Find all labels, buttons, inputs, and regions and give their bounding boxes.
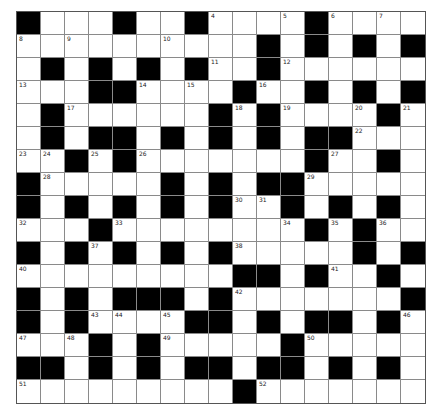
answer-cell[interactable] bbox=[377, 334, 401, 357]
answer-cell[interactable] bbox=[17, 58, 41, 81]
answer-cell[interactable]: 13 bbox=[17, 81, 41, 104]
answer-cell[interactable] bbox=[137, 265, 161, 288]
answer-cell[interactable] bbox=[305, 380, 329, 403]
answer-cell[interactable]: 33 bbox=[113, 219, 137, 242]
answer-cell[interactable]: 15 bbox=[185, 81, 209, 104]
answer-cell[interactable] bbox=[401, 173, 425, 196]
answer-cell[interactable] bbox=[209, 334, 233, 357]
answer-cell[interactable] bbox=[41, 380, 65, 403]
answer-cell[interactable] bbox=[113, 357, 137, 380]
answer-cell[interactable]: 20 bbox=[353, 104, 377, 127]
answer-cell[interactable]: 36 bbox=[377, 219, 401, 242]
answer-cell[interactable]: 26 bbox=[137, 150, 161, 173]
answer-cell[interactable] bbox=[401, 219, 425, 242]
answer-cell[interactable] bbox=[65, 127, 89, 150]
answer-cell[interactable] bbox=[281, 150, 305, 173]
answer-cell[interactable]: 29 bbox=[305, 173, 329, 196]
answer-cell[interactable] bbox=[89, 380, 113, 403]
answer-cell[interactable] bbox=[41, 196, 65, 219]
answer-cell[interactable]: 47 bbox=[17, 334, 41, 357]
answer-cell[interactable] bbox=[41, 219, 65, 242]
answer-cell[interactable] bbox=[17, 127, 41, 150]
answer-cell[interactable]: 22 bbox=[353, 127, 377, 150]
answer-cell[interactable] bbox=[185, 127, 209, 150]
answer-cell[interactable]: 50 bbox=[305, 334, 329, 357]
answer-cell[interactable] bbox=[401, 357, 425, 380]
answer-cell[interactable] bbox=[65, 12, 89, 35]
answer-cell[interactable] bbox=[41, 288, 65, 311]
answer-cell[interactable]: 51 bbox=[17, 380, 41, 403]
answer-cell[interactable] bbox=[209, 150, 233, 173]
answer-cell[interactable] bbox=[185, 150, 209, 173]
answer-cell[interactable] bbox=[185, 196, 209, 219]
answer-cell[interactable] bbox=[89, 35, 113, 58]
answer-cell[interactable]: 27 bbox=[329, 150, 353, 173]
answer-cell[interactable] bbox=[41, 242, 65, 265]
answer-cell[interactable] bbox=[185, 288, 209, 311]
answer-cell[interactable] bbox=[209, 380, 233, 403]
answer-cell[interactable] bbox=[281, 81, 305, 104]
answer-cell[interactable] bbox=[329, 242, 353, 265]
answer-cell[interactable]: 25 bbox=[89, 150, 113, 173]
answer-cell[interactable]: 10 bbox=[161, 35, 185, 58]
answer-cell[interactable] bbox=[281, 380, 305, 403]
answer-cell[interactable] bbox=[185, 104, 209, 127]
answer-cell[interactable] bbox=[233, 219, 257, 242]
answer-cell[interactable] bbox=[377, 58, 401, 81]
answer-cell[interactable]: 44 bbox=[113, 311, 137, 334]
answer-cell[interactable] bbox=[113, 334, 137, 357]
answer-cell[interactable] bbox=[353, 58, 377, 81]
answer-cell[interactable] bbox=[257, 334, 281, 357]
answer-cell[interactable]: 4 bbox=[209, 12, 233, 35]
answer-cell[interactable] bbox=[209, 81, 233, 104]
answer-cell[interactable] bbox=[377, 380, 401, 403]
answer-cell[interactable] bbox=[113, 265, 137, 288]
answer-cell[interactable] bbox=[89, 104, 113, 127]
answer-cell[interactable] bbox=[305, 357, 329, 380]
answer-cell[interactable]: 30 bbox=[233, 196, 257, 219]
answer-cell[interactable] bbox=[401, 150, 425, 173]
answer-cell[interactable] bbox=[137, 127, 161, 150]
answer-cell[interactable] bbox=[137, 242, 161, 265]
answer-cell[interactable] bbox=[65, 380, 89, 403]
answer-cell[interactable] bbox=[257, 242, 281, 265]
answer-cell[interactable] bbox=[65, 173, 89, 196]
answer-cell[interactable]: 5 bbox=[281, 12, 305, 35]
answer-cell[interactable] bbox=[281, 265, 305, 288]
answer-cell[interactable]: 49 bbox=[161, 334, 185, 357]
answer-cell[interactable] bbox=[329, 288, 353, 311]
answer-cell[interactable]: 23 bbox=[17, 150, 41, 173]
answer-cell[interactable] bbox=[89, 265, 113, 288]
answer-cell[interactable]: 48 bbox=[65, 334, 89, 357]
answer-cell[interactable] bbox=[185, 334, 209, 357]
answer-cell[interactable] bbox=[257, 12, 281, 35]
answer-cell[interactable]: 18 bbox=[233, 104, 257, 127]
answer-cell[interactable] bbox=[185, 173, 209, 196]
answer-cell[interactable] bbox=[17, 104, 41, 127]
answer-cell[interactable] bbox=[329, 81, 353, 104]
answer-cell[interactable] bbox=[401, 196, 425, 219]
answer-cell[interactable] bbox=[401, 380, 425, 403]
answer-cell[interactable] bbox=[353, 265, 377, 288]
answer-cell[interactable]: 19 bbox=[281, 104, 305, 127]
answer-cell[interactable]: 8 bbox=[17, 35, 41, 58]
answer-cell[interactable] bbox=[257, 150, 281, 173]
answer-cell[interactable] bbox=[329, 334, 353, 357]
answer-cell[interactable] bbox=[209, 35, 233, 58]
answer-cell[interactable] bbox=[41, 311, 65, 334]
answer-cell[interactable] bbox=[137, 196, 161, 219]
answer-cell[interactable] bbox=[233, 58, 257, 81]
answer-cell[interactable]: 12 bbox=[281, 58, 305, 81]
answer-cell[interactable] bbox=[329, 35, 353, 58]
answer-cell[interactable]: 46 bbox=[401, 311, 425, 334]
answer-cell[interactable] bbox=[161, 58, 185, 81]
answer-cell[interactable] bbox=[353, 196, 377, 219]
answer-cell[interactable] bbox=[281, 127, 305, 150]
answer-cell[interactable] bbox=[377, 288, 401, 311]
answer-cell[interactable] bbox=[353, 150, 377, 173]
answer-cell[interactable]: 6 bbox=[329, 12, 353, 35]
answer-cell[interactable] bbox=[161, 380, 185, 403]
answer-cell[interactable] bbox=[233, 311, 257, 334]
answer-cell[interactable] bbox=[209, 219, 233, 242]
answer-cell[interactable] bbox=[185, 380, 209, 403]
